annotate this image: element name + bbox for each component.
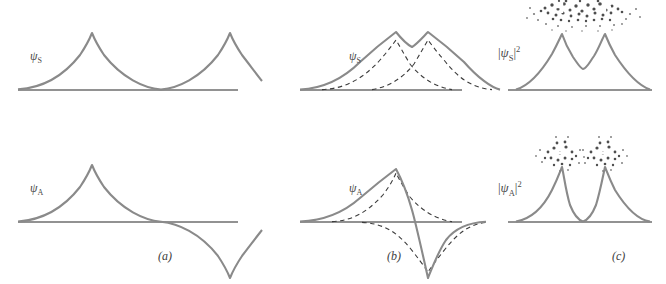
wavefunction-figure: ψS ψS |ψS|2 ψA ψA |ψA|2 (a) (b) (c) (0, 0, 666, 284)
wave-label-psi-a-panel-a: ψA (30, 182, 43, 197)
wave-label-psi-s-panel-b: ψS (349, 50, 361, 65)
curve-density-psi-a (516, 167, 650, 222)
curve-psi-s-panel-b (300, 32, 500, 90)
dashed-component-1-symmetric (322, 40, 452, 90)
density-label-psi-a: |ψA|2 (498, 180, 522, 197)
wave-label-psi-a-panel-b: ψA (349, 182, 362, 197)
curve-density-psi-s (516, 34, 650, 90)
panel-label-a: (a) (158, 250, 172, 262)
wave-label-psi-s-panel-a: ψS (30, 50, 42, 65)
figure-canvas (0, 0, 666, 284)
electron-cloud-symmetric (526, 0, 641, 32)
curve-psi-s-panel-a (18, 33, 262, 90)
panel-label-c: (c) (612, 250, 625, 262)
row-antisymmetric (18, 136, 652, 278)
panel-label-b: (b) (387, 250, 401, 262)
density-label-psi-s: |ψS|2 (498, 45, 520, 62)
row-symmetric (18, 0, 652, 90)
electron-cloud-antisymmetric (535, 136, 628, 172)
